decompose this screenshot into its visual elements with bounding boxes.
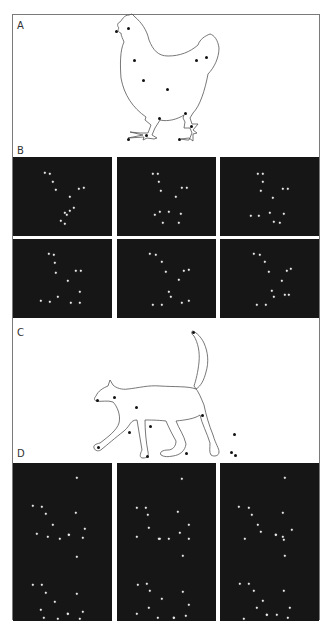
point-light-dot xyxy=(148,607,150,609)
cat-frame-4 xyxy=(13,542,112,621)
point-light-dot xyxy=(239,583,241,585)
point-light-dot xyxy=(76,477,78,479)
point-light-dot xyxy=(253,590,255,592)
point-light-dot xyxy=(182,555,184,557)
cat-frame-6 xyxy=(220,542,319,621)
point-light-dot xyxy=(179,532,181,534)
point-light-dot xyxy=(188,604,190,606)
cat-joint-marker xyxy=(128,431,131,434)
point-light-dot xyxy=(283,590,285,592)
cat-joint-marker xyxy=(230,451,233,454)
point-light-dot xyxy=(82,611,84,613)
point-light-dot xyxy=(43,617,45,619)
point-light-dot xyxy=(159,538,161,540)
point-light-dot xyxy=(185,615,187,617)
cat-frame-1 xyxy=(13,463,112,542)
point-light-dot xyxy=(76,556,78,558)
point-light-dot xyxy=(47,536,49,538)
point-light-dot xyxy=(136,507,138,509)
point-light-dot xyxy=(168,538,170,540)
point-light-dot xyxy=(257,524,259,526)
point-light-dot xyxy=(75,512,77,514)
point-light-dot xyxy=(59,538,61,540)
point-light-dot xyxy=(289,607,291,609)
point-light-dot xyxy=(36,533,38,535)
point-light-dot xyxy=(291,529,293,531)
cat-joint-marker xyxy=(201,414,204,417)
point-light-dot xyxy=(45,592,47,594)
point-light-dot xyxy=(283,539,285,541)
point-light-dot xyxy=(238,506,240,508)
point-light-dot xyxy=(266,614,268,616)
cat-joint-marker xyxy=(233,433,236,436)
point-light-dot xyxy=(137,584,139,586)
cat-joint-marker xyxy=(185,452,188,455)
point-light-dot xyxy=(182,591,184,593)
cat-joint-marker xyxy=(234,454,237,457)
point-light-dot xyxy=(256,607,258,609)
point-light-dot xyxy=(136,536,138,538)
cat-joint-marker xyxy=(97,446,100,449)
point-light-dot xyxy=(40,609,42,611)
point-light-dot xyxy=(260,531,262,533)
point-light-dot xyxy=(161,598,163,600)
point-light-dot xyxy=(52,524,54,526)
point-light-dot xyxy=(76,593,78,595)
cat-joint-marker xyxy=(192,331,195,334)
point-light-dot xyxy=(284,555,286,557)
point-light-dot xyxy=(181,478,183,480)
point-light-dot xyxy=(282,512,284,514)
cat-joint-marker xyxy=(113,396,116,399)
point-light-dot xyxy=(32,505,34,507)
point-light-dot xyxy=(188,538,190,540)
point-light-dot xyxy=(41,584,43,586)
point-light-dot xyxy=(32,584,34,586)
point-light-dot xyxy=(84,528,86,530)
cat-frame-3 xyxy=(220,463,319,542)
cat-joint-marker xyxy=(135,406,138,409)
point-light-dot xyxy=(146,583,148,585)
cat-frame-5 xyxy=(117,542,216,621)
point-light-dot xyxy=(136,613,138,615)
cat-joint-marker xyxy=(149,425,152,428)
point-light-dot xyxy=(54,601,56,603)
point-light-dot xyxy=(276,614,278,616)
cat-joint-marker xyxy=(96,399,99,402)
point-light-dot xyxy=(284,477,286,479)
point-light-dot xyxy=(145,507,147,509)
point-light-dot xyxy=(41,506,43,508)
point-light-dot xyxy=(147,514,149,516)
point-light-dot xyxy=(248,507,250,509)
point-light-dot xyxy=(251,514,253,516)
cat-joint-marker xyxy=(146,455,149,458)
point-light-dot xyxy=(188,524,190,526)
point-light-dot xyxy=(287,617,289,619)
point-light-dot xyxy=(177,511,179,513)
point-light-dot xyxy=(45,513,47,515)
point-light-dot xyxy=(157,617,159,619)
point-light-dot xyxy=(57,618,59,620)
cat-outline xyxy=(94,331,219,458)
point-light-dot xyxy=(244,538,246,540)
point-light-dot xyxy=(262,600,264,602)
cat-frame-2 xyxy=(117,463,216,542)
point-light-dot xyxy=(243,618,245,620)
point-light-dot xyxy=(67,613,69,615)
cat-drawing xyxy=(0,0,332,460)
point-light-dot xyxy=(248,583,250,585)
point-light-dot xyxy=(79,618,81,620)
point-light-dot xyxy=(173,617,175,619)
point-light-dot xyxy=(68,534,70,536)
point-light-dot xyxy=(149,590,151,592)
point-light-dot xyxy=(275,534,277,536)
point-light-dot xyxy=(148,527,150,529)
point-light-dot xyxy=(82,537,84,539)
